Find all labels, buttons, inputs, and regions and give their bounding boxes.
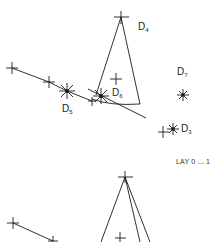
d3-star-dot xyxy=(172,128,175,131)
d6-star-dot xyxy=(100,95,103,98)
label-d4-sub: 4 xyxy=(145,27,148,33)
waypoint-cross-marker xyxy=(43,76,55,88)
label-d3-sub: 3 xyxy=(188,129,191,135)
label-d3: D3 xyxy=(181,124,192,135)
label-d6-sub: 6 xyxy=(119,93,122,99)
bottom-center-plus xyxy=(115,232,126,242)
cone-base-arc xyxy=(92,99,140,104)
bottom-trajectory-line xyxy=(13,223,53,241)
bottom-cone-left-edge xyxy=(101,177,125,242)
cone-center-plus xyxy=(110,73,122,85)
end-tick-marker xyxy=(88,97,96,106)
cone-left-edge xyxy=(96,17,121,95)
bottom-apex-cross xyxy=(118,171,133,183)
d5-star-dot xyxy=(66,90,69,93)
label-d5-sub: 5 xyxy=(69,109,72,115)
diagram-canvas xyxy=(0,0,221,242)
label-d7: D7 xyxy=(177,67,188,78)
layer-caption: LAY 0 ⌴ 1 xyxy=(176,158,210,166)
start-cross-marker xyxy=(6,62,18,74)
d7-star-dot xyxy=(182,94,185,97)
label-d7-sub: 7 xyxy=(184,72,187,78)
d3-plus-marker xyxy=(158,126,169,138)
label-d6: D6 xyxy=(112,88,123,99)
bottom-start-cross xyxy=(7,217,19,229)
label-d4: D4 xyxy=(138,22,149,33)
label-d5: D5 xyxy=(62,104,73,115)
d5-trajectory-line xyxy=(12,68,92,101)
